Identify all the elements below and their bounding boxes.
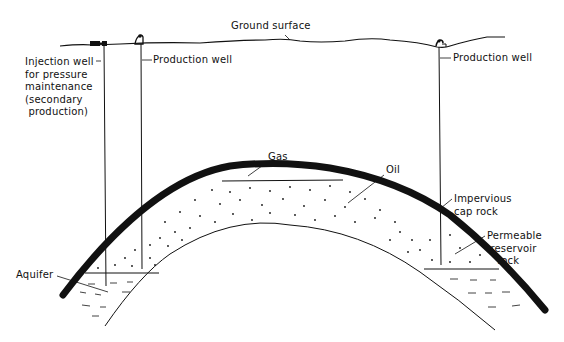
label-cap-rock: Impervious cap rock bbox=[454, 193, 512, 218]
label-reservoir-rock: Permeable reservoir rock bbox=[487, 230, 542, 268]
label-ground-surface: Ground surface bbox=[231, 20, 311, 33]
gas-oil-contact bbox=[222, 180, 343, 181]
label-production-well-left: Production well bbox=[153, 54, 232, 67]
production-wellhead-icon-right bbox=[436, 39, 446, 47]
reservoir-base-line bbox=[105, 223, 495, 330]
label-oil: Oil bbox=[386, 164, 400, 177]
label-aquifer: Aquifer bbox=[16, 269, 53, 282]
production-wellhead-icon-left bbox=[135, 34, 143, 44]
aquifer-water-marks bbox=[80, 279, 520, 316]
production-well-bore-left bbox=[141, 44, 142, 269]
production-well-bore-right bbox=[439, 47, 441, 265]
label-gas: Gas bbox=[268, 151, 288, 164]
cap-rock bbox=[63, 163, 545, 310]
label-injection-well: Injection well for pressure maintenance … bbox=[25, 56, 94, 119]
label-production-well-right: Production well bbox=[453, 52, 532, 65]
